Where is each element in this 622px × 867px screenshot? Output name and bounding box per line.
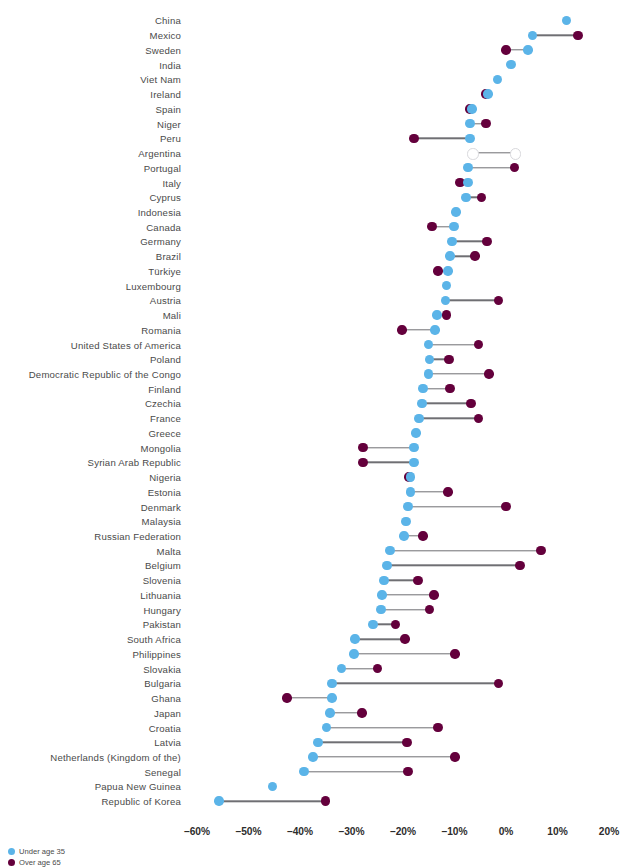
over-65-dot[interactable] bbox=[321, 796, 330, 805]
under-35-dot[interactable] bbox=[313, 738, 322, 747]
under-35-dot[interactable] bbox=[385, 546, 394, 555]
under-35-dot[interactable] bbox=[406, 472, 415, 481]
under-35-dot[interactable] bbox=[461, 193, 470, 202]
over-65-dot[interactable] bbox=[397, 325, 406, 334]
over-65-dot[interactable] bbox=[425, 605, 434, 614]
under-35-dot[interactable] bbox=[268, 782, 277, 791]
over-65-dot[interactable] bbox=[444, 355, 453, 364]
over-65-dot[interactable] bbox=[482, 237, 491, 246]
under-35-dot[interactable] bbox=[349, 649, 358, 658]
over-65-dot[interactable] bbox=[409, 134, 418, 143]
over-65-dot[interactable] bbox=[536, 546, 545, 555]
under-35-dot[interactable] bbox=[442, 281, 451, 290]
over-65-dot[interactable] bbox=[358, 458, 367, 467]
over-65-dot[interactable] bbox=[450, 752, 459, 761]
under-35-dot[interactable] bbox=[308, 752, 317, 761]
under-35-dot[interactable] bbox=[214, 796, 223, 805]
under-35-dot[interactable] bbox=[441, 296, 450, 305]
under-35-dot[interactable] bbox=[506, 60, 515, 69]
under-35-dot[interactable] bbox=[406, 487, 415, 496]
over-65-dot[interactable] bbox=[501, 502, 510, 511]
under-35-dot[interactable] bbox=[299, 767, 308, 776]
under-35-dot[interactable] bbox=[417, 399, 426, 408]
under-35-dot[interactable] bbox=[424, 340, 433, 349]
under-35-dot[interactable] bbox=[528, 31, 537, 40]
under-35-dot[interactable] bbox=[399, 531, 408, 540]
under-35-dot[interactable] bbox=[322, 723, 331, 732]
under-35-dot[interactable] bbox=[409, 443, 418, 452]
row-label: Finland bbox=[148, 383, 181, 394]
under-35-dot[interactable] bbox=[403, 502, 412, 511]
legend-item-young[interactable]: Under age 35 bbox=[8, 847, 65, 856]
over-65-dot[interactable] bbox=[357, 708, 366, 717]
over-65-dot[interactable] bbox=[573, 31, 582, 40]
over-65-dot[interactable] bbox=[413, 576, 422, 585]
over-65-dot[interactable] bbox=[403, 767, 412, 776]
under-35-dot[interactable] bbox=[449, 222, 458, 231]
under-35-dot[interactable] bbox=[463, 163, 472, 172]
over-65-dot[interactable] bbox=[400, 634, 409, 643]
under-35-dot[interactable] bbox=[467, 148, 478, 159]
under-35-dot[interactable] bbox=[467, 104, 476, 113]
under-35-dot[interactable] bbox=[409, 458, 418, 467]
over-65-dot[interactable] bbox=[494, 679, 503, 688]
over-65-dot[interactable] bbox=[450, 649, 459, 658]
over-65-dot[interactable] bbox=[373, 664, 382, 673]
under-35-dot[interactable] bbox=[465, 134, 474, 143]
over-65-dot[interactable] bbox=[484, 369, 493, 378]
over-65-dot[interactable] bbox=[474, 340, 483, 349]
under-35-dot[interactable] bbox=[443, 266, 452, 275]
legend-item-old[interactable]: Over age 65 bbox=[8, 858, 61, 867]
over-65-dot[interactable] bbox=[481, 119, 490, 128]
under-35-dot[interactable] bbox=[523, 45, 532, 54]
under-35-dot[interactable] bbox=[493, 75, 502, 84]
under-35-dot[interactable] bbox=[411, 428, 420, 437]
over-65-dot[interactable] bbox=[358, 443, 367, 452]
under-35-dot[interactable] bbox=[425, 355, 434, 364]
under-35-dot[interactable] bbox=[379, 576, 388, 585]
under-35-dot[interactable] bbox=[350, 634, 359, 643]
under-35-dot[interactable] bbox=[376, 605, 385, 614]
over-65-dot[interactable] bbox=[515, 561, 524, 570]
under-35-dot[interactable] bbox=[382, 561, 391, 570]
chart-row: Spain bbox=[0, 102, 622, 117]
over-65-dot[interactable] bbox=[501, 45, 510, 54]
under-35-dot[interactable] bbox=[483, 89, 492, 98]
over-65-dot[interactable] bbox=[474, 414, 483, 423]
over-65-dot[interactable] bbox=[391, 620, 400, 629]
over-65-dot[interactable] bbox=[510, 148, 521, 159]
under-35-dot[interactable] bbox=[424, 369, 433, 378]
over-65-dot[interactable] bbox=[477, 193, 486, 202]
under-35-dot[interactable] bbox=[368, 620, 377, 629]
over-65-dot[interactable] bbox=[494, 296, 503, 305]
over-65-dot[interactable] bbox=[510, 163, 519, 172]
over-65-dot[interactable] bbox=[433, 723, 442, 732]
under-35-dot[interactable] bbox=[562, 16, 571, 25]
under-35-dot[interactable] bbox=[325, 708, 334, 717]
over-65-dot[interactable] bbox=[418, 531, 427, 540]
over-65-dot[interactable] bbox=[466, 399, 475, 408]
under-35-dot[interactable] bbox=[465, 119, 474, 128]
under-35-dot[interactable] bbox=[327, 693, 336, 702]
over-65-dot[interactable] bbox=[282, 693, 291, 702]
under-35-dot[interactable] bbox=[445, 251, 454, 260]
under-35-dot[interactable] bbox=[447, 237, 456, 246]
under-35-dot[interactable] bbox=[418, 384, 427, 393]
under-35-dot[interactable] bbox=[327, 679, 336, 688]
over-65-dot[interactable] bbox=[442, 310, 451, 319]
under-35-dot[interactable] bbox=[430, 325, 439, 334]
under-35-dot[interactable] bbox=[401, 517, 410, 526]
under-35-dot[interactable] bbox=[463, 178, 472, 187]
over-65-dot[interactable] bbox=[443, 487, 452, 496]
over-65-dot[interactable] bbox=[433, 266, 442, 275]
under-35-dot[interactable] bbox=[337, 664, 346, 673]
under-35-dot[interactable] bbox=[377, 590, 386, 599]
over-65-dot[interactable] bbox=[445, 384, 454, 393]
under-35-dot[interactable] bbox=[414, 414, 423, 423]
over-65-dot[interactable] bbox=[427, 222, 436, 231]
over-65-dot[interactable] bbox=[402, 738, 411, 747]
under-35-dot[interactable] bbox=[451, 207, 460, 216]
over-65-dot[interactable] bbox=[470, 251, 479, 260]
over-65-dot[interactable] bbox=[429, 590, 438, 599]
under-35-dot[interactable] bbox=[432, 310, 441, 319]
